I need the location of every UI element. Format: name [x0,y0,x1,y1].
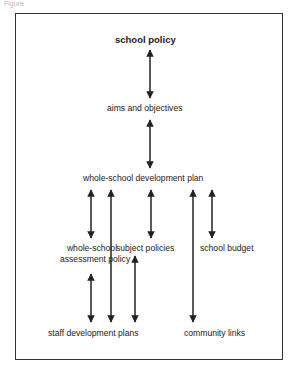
node-assessment-policy: whole-school assessment policy [60,243,124,265]
node-aims-objectives: aims and objectives [107,103,182,114]
node-assessment-line2: assessment policy [60,254,124,265]
node-development-plan: whole-school development plan [83,173,203,184]
node-staff-development: staff development plans [48,328,139,339]
node-assessment-line1: whole-school [60,243,124,254]
node-school-budget: school budget [200,243,254,254]
node-community-links: community links [184,328,245,339]
arrows-layer [0,0,292,369]
node-subject-policies: subject policies [116,243,174,254]
node-school-policy: school policy [115,34,176,45]
